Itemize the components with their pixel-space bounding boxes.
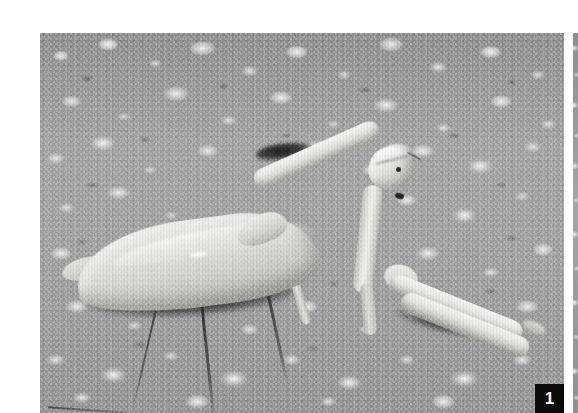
figure-1-photograph[interactable]: 1 <box>40 33 564 413</box>
gravel-substrate <box>40 33 564 413</box>
adjacent-gravel-substrate <box>573 33 578 413</box>
adjacent-figure-sliver[interactable] <box>573 33 578 413</box>
figure-number-badge: 1 <box>535 384 564 413</box>
